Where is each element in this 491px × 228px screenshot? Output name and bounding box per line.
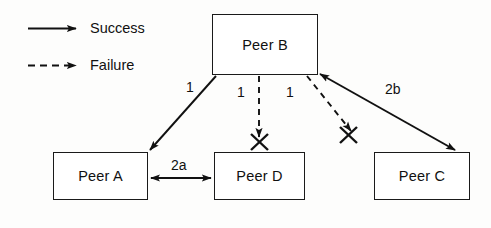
edge-line-b-to-a — [150, 76, 216, 150]
node-label-peer-a: Peer A — [78, 168, 123, 184]
edge-label-b-to-d: 1 — [237, 85, 245, 99]
node-peer-c[interactable]: Peer C — [374, 152, 470, 200]
legend-label-success: Success — [90, 21, 145, 36]
peer-network-diagram: Success Failure Peer B Peer A Peer D Pee… — [0, 0, 491, 228]
legend-label-failure: Failure — [90, 58, 134, 73]
x-mark-peer-c-icon — [340, 127, 357, 143]
edge-label-b-to-a: 1 — [186, 80, 194, 94]
node-label-peer-b: Peer B — [242, 37, 288, 53]
node-peer-a[interactable]: Peer A — [53, 152, 148, 200]
edge-label-b-to-c: 1 — [286, 85, 294, 99]
node-label-peer-c: Peer C — [399, 168, 445, 184]
node-peer-b[interactable]: Peer B — [212, 14, 318, 75]
edge-label-c-to-b: 2b — [385, 82, 401, 96]
node-label-peer-d: Peer D — [236, 168, 282, 184]
edge-line-b-to-c — [307, 76, 351, 131]
edge-label-a-to-d: 2a — [171, 158, 187, 172]
node-peer-d[interactable]: Peer D — [214, 152, 305, 200]
